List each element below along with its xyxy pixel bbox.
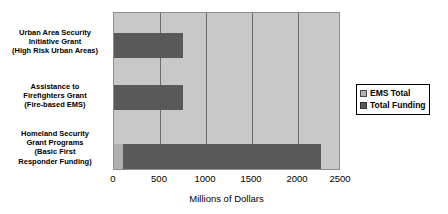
legend-swatch-icon-total-funding <box>360 102 367 109</box>
xtick-label-1000: 1000 <box>185 173 225 184</box>
bar-chart: Urban Area Security Initiative Grant (Hi… <box>0 0 448 214</box>
xtick-label-2500: 2500 <box>320 173 360 184</box>
legend: EMS Total Total Funding <box>356 84 430 115</box>
legend-swatch-icon-ems-total <box>360 90 367 97</box>
category-label-homeland-security-grant-programs: Homeland Security Grant Programs (Basic … <box>0 129 110 166</box>
category-label-assistance-to-firefighters: Assistance to Firefighters Grant (Fire-b… <box>0 82 110 110</box>
bar-urban-area-security-total-funding <box>114 33 183 58</box>
x-axis-title: Millions of Dollars <box>113 193 340 204</box>
legend-label-total-funding: Total Funding <box>370 100 426 110</box>
legend-entry-ems-total: EMS Total <box>360 87 426 99</box>
bar-homeland-security-ems-total <box>114 144 123 169</box>
category-label-urban-area-security: Urban Area Security Initiative Grant (Hi… <box>0 28 110 56</box>
legend-entry-total-funding: Total Funding <box>360 99 426 111</box>
plot-area <box>113 12 340 170</box>
legend-label-ems-total: EMS Total <box>370 88 410 98</box>
bar-homeland-security-total-funding <box>123 144 321 169</box>
xtick-label-0: 0 <box>93 173 133 184</box>
xtick-label-500: 500 <box>139 173 179 184</box>
bar-assistance-to-firefighters-total-funding <box>114 85 183 110</box>
xtick-label-2000: 2000 <box>277 173 317 184</box>
xtick-label-1500: 1500 <box>231 173 271 184</box>
